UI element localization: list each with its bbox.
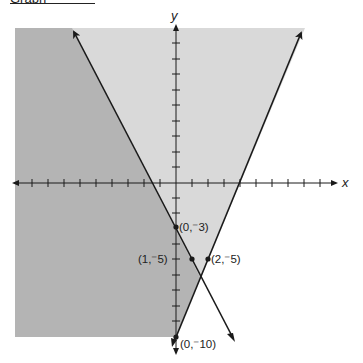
label-1-neg5: (1,⁻5): [138, 253, 168, 265]
label-0-neg3: (0,⁻3): [179, 221, 209, 233]
point-2-neg5: [205, 256, 210, 261]
line-1-arrow-down-icon: [227, 333, 235, 342]
point-0-neg10: [173, 334, 178, 339]
x-axis-arrow-icon: [331, 180, 338, 186]
inequality-graph: x y (0,⁻3) (1,⁻5) (2,⁻5) (0,⁻10): [0, 0, 363, 363]
point-1-neg5: [189, 256, 194, 261]
label-2-neg5: (2,⁻5): [211, 253, 241, 265]
y-axis-label: y: [170, 8, 179, 23]
x-axis-label: x: [341, 175, 349, 190]
y-axis-arrow-down-icon: [173, 348, 179, 355]
y-axis-arrow-icon: [173, 24, 179, 31]
label-0-neg10: (0,⁻10): [180, 338, 216, 350]
point-0-neg3: [173, 224, 178, 229]
